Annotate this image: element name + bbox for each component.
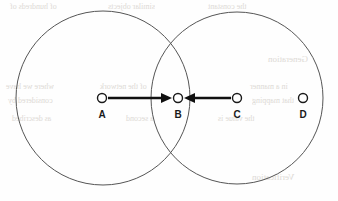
- point-d-marker: [299, 94, 308, 103]
- point-a-marker: [98, 94, 107, 103]
- figure-container: of hundreds ofsimilar objectsthe constan…: [0, 0, 338, 201]
- arrow-a-to-b: [108, 93, 172, 103]
- point-b-label: B: [174, 109, 181, 120]
- point-b-marker: [174, 94, 183, 103]
- diagram-canvas: A B C D: [0, 0, 338, 201]
- point-d-label: D: [299, 109, 306, 120]
- arrow-c-to-b: [184, 93, 231, 103]
- point-c-label: C: [233, 109, 240, 120]
- point-a-label: A: [98, 109, 105, 120]
- point-c-marker: [233, 94, 242, 103]
